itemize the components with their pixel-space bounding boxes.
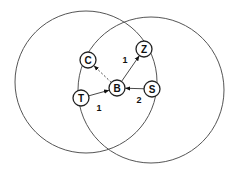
edge-s-to-b xyxy=(125,88,144,89)
node-label-c: C xyxy=(84,55,91,66)
range-left-circle xyxy=(15,11,157,153)
node-label-z: Z xyxy=(141,44,147,55)
nodes: CZBTS xyxy=(73,41,160,106)
node-label-b: B xyxy=(113,83,120,94)
network-diagram: 112 CZBTS xyxy=(0,0,234,171)
node-label-s: S xyxy=(149,84,156,95)
edge-label-t-b: 1 xyxy=(96,103,101,113)
node-s: S xyxy=(144,81,160,97)
node-t: T xyxy=(73,90,89,106)
edge-label-s-b: 2 xyxy=(136,95,141,105)
node-z: Z xyxy=(136,41,152,57)
edge-t-to-b xyxy=(89,90,109,96)
node-label-t: T xyxy=(78,93,84,104)
edge-b-to-c xyxy=(94,66,111,83)
node-b: B xyxy=(109,80,125,96)
edge-label-b-z: 1 xyxy=(122,55,127,65)
node-c: C xyxy=(80,52,96,68)
